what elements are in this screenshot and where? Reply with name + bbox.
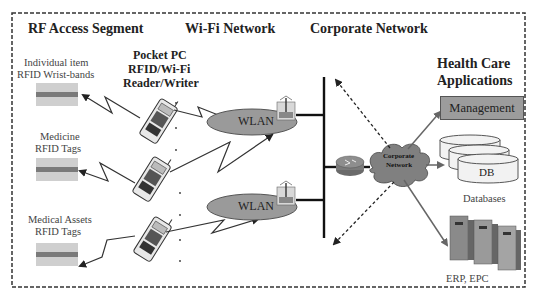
erp-epc-label: ERP, EPC bbox=[446, 273, 489, 285]
rfid-tag-medical-assets bbox=[36, 243, 78, 266]
tag-label-medicine-line2: RFID Tags bbox=[35, 143, 81, 155]
tag-label-wristband-line2: RFID Wrist-bands bbox=[17, 69, 94, 81]
pocket-pc-1 bbox=[139, 93, 181, 144]
management-label: Management bbox=[449, 101, 514, 116]
tag-label-medicine-line1: Medicine bbox=[40, 131, 80, 143]
wlan-label-1: WLAN bbox=[238, 115, 274, 129]
rf-access-segment-heading: RF Access Segment bbox=[28, 21, 143, 37]
router bbox=[336, 156, 364, 176]
pocket-pc-label-line2: RFID/Wi-Fi bbox=[128, 63, 190, 77]
rfid-tag-wristband bbox=[36, 83, 78, 106]
erp-servers bbox=[450, 216, 521, 270]
cloud-label-line1: Corporate bbox=[383, 152, 414, 160]
access-point-1 bbox=[277, 96, 295, 120]
management-box: Management bbox=[440, 96, 524, 120]
access-point-2 bbox=[277, 181, 295, 205]
tag-label-wristband-line1: Individual item bbox=[24, 57, 88, 69]
pocket-pc-label-line1: Pocket PC bbox=[133, 49, 187, 63]
health-care-heading-line2: Applications bbox=[437, 73, 512, 89]
dotted-separator bbox=[175, 102, 181, 262]
rf-links bbox=[80, 95, 140, 266]
corporate-network-heading: Corporate Network bbox=[310, 21, 428, 37]
pocket-pc-label-line3: Reader/Writer bbox=[123, 77, 199, 91]
health-care-heading-line1: Health Care bbox=[437, 56, 510, 72]
tag-label-assets-line1: Medical Assets bbox=[28, 214, 92, 226]
wifi-network-heading: Wi-Fi Network bbox=[185, 21, 275, 37]
tag-label-assets-line2: RFID Tags bbox=[35, 226, 81, 238]
db-label: DB bbox=[479, 166, 494, 179]
wlan-label-2: WLAN bbox=[238, 200, 274, 214]
cloud-label-line2: Network bbox=[386, 161, 412, 169]
databases-label: Databases bbox=[463, 193, 506, 205]
pocket-pc-2 bbox=[132, 151, 174, 202]
rfid-tag-medicine bbox=[36, 158, 78, 181]
pocket-pc-3 bbox=[133, 211, 175, 262]
